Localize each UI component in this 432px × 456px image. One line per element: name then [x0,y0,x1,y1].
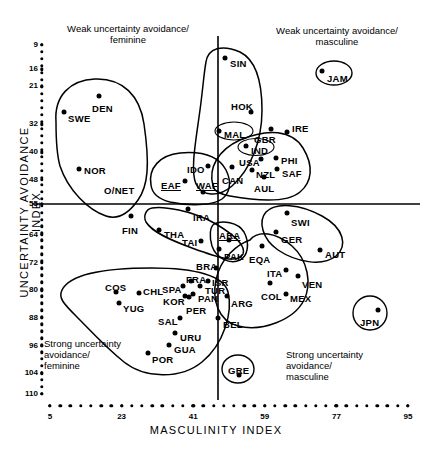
y-axis-tick-label: 48 [18,176,38,184]
point-label-col: COL [261,292,282,302]
point-label-fra: FRA [186,275,206,285]
point-label-yug: YUG [123,304,145,314]
data-point-jpn [376,308,381,313]
point-label-waf: WAF [196,181,218,191]
data-point-mex [284,292,289,297]
point-label-swi: SWI [291,218,310,228]
data-point-bel [216,316,221,321]
data-point-ven [296,274,301,279]
data-point-fin [129,214,134,219]
point-label-pan: PAN [198,294,218,304]
data-point-isr [206,279,211,284]
data-point-gua [167,343,172,348]
y-axis-tick-label: 80 [18,286,38,294]
y-axis-tick-label: 9 [18,41,38,49]
x-axis-tick-label: 77 [326,413,346,421]
point-label-kor: KOR [163,297,185,307]
point-label-pak: PAK [224,252,244,262]
data-point-col [268,281,273,286]
point-label-ara: ARA [219,231,240,241]
data-point-tha [157,228,162,233]
data-point-den [97,94,102,99]
masculinity-uncertainty-scatter-plot: Weak uncertainty avoidance/ feminine Wea… [0,0,432,456]
data-point-nor [77,167,82,172]
x-axis-tick-label: 5 [40,413,60,421]
point-label-mal: MAL [224,130,245,140]
point-label-per: PER [186,306,206,316]
data-point-saf [275,167,280,172]
point-label-ire: IRE [292,124,309,134]
point-label-tai: TAI [182,238,198,248]
y-axis-tick-label: 16 [18,65,38,73]
x-axis-tick-label: 23 [112,413,132,421]
data-point-swi [285,211,290,216]
data-point-yug [117,301,122,306]
point-label-phi: PHI [281,156,298,166]
point-label-bel: BEL [223,320,243,330]
point-label-por: POR [152,355,174,365]
data-point-ire [285,130,290,135]
point-label-nor: NOR [84,166,106,176]
x-axis-tick-label: 41 [183,413,203,421]
data-point-ger [274,230,279,235]
point-label-eaf: EAF [161,181,181,191]
data-point-ind [244,144,249,149]
data-point-tai [199,239,204,244]
x-axis-tick-label: 59 [255,413,275,421]
point-label-saf: SAF [282,169,302,179]
y-axis-tick-label: 64 [18,231,38,239]
point-label-ger: GER [281,235,303,245]
point-label-can: CAN [222,176,243,186]
annotation-strong-masculine: Strong uncertainty avoidance/ masculine [286,350,416,383]
point-label-uru: URU [180,333,201,343]
point-label-ita: ITA [267,269,283,279]
y-axis-tick-label: 21 [18,82,38,90]
data-point-sal [178,316,183,321]
y-axis-tick-label: 32 [18,120,38,128]
y-axis-tick-label: 55 [18,200,38,208]
data-point-can [230,165,235,170]
point-label-sal: SAL [158,317,178,327]
point-label-aul: AUL [254,184,274,194]
data-point-uru [173,331,178,336]
y-axis-tick-label: 96 [18,342,38,350]
point-label-arg: ARG [231,299,253,309]
data-point-por [146,351,151,356]
y-axis-tick-label: 110 [18,390,38,398]
x-axis-title: MASCULINITY INDEX [0,424,432,436]
point-label-sin: SIN [230,59,247,69]
point-label-gre: GRE [228,366,250,376]
data-point-ido [206,164,211,169]
point-label-ido: IDO [187,165,205,175]
point-label-chl: CHL [143,287,163,297]
data-point-per [187,295,192,300]
point-label-ira: IRA [193,213,210,223]
y-axis-tick-label: 104 [18,369,38,377]
point-label-spa: SPA [162,285,182,295]
point-label-jpn: JPN [360,318,379,328]
point-label-jam: JAM [327,74,348,84]
point-label-gua: GUA [174,345,196,355]
point-label-o-net: O/NET [104,186,135,196]
annotation-weak-masculine: Weak uncertainty avoidance/ masculine [252,26,422,48]
data-point-arg [225,294,230,299]
data-point-pak [217,247,222,252]
point-label-eqa: EQA [249,255,271,265]
data-point-ira [186,207,191,212]
point-label-cos: COS [105,283,127,293]
point-label-ven: VEN [302,280,322,290]
y-axis-tick-label: 72 [18,259,38,267]
point-label-gbr: GBR [254,135,276,145]
point-label-mex: MEX [290,294,312,304]
point-label-den: DEN [92,104,113,114]
data-point-sin [223,56,228,61]
data-point-tur [198,284,203,289]
data-point-eqa [260,244,265,249]
annotation-weak-feminine: Weak uncertainty avoidance/ feminine [48,24,208,46]
point-label-aut: AUT [325,250,345,260]
data-point-aul [262,175,267,180]
data-point-jam [320,69,325,74]
x-axis-tick-label: 95 [398,413,418,421]
point-label-fin: FIN [122,226,138,236]
data-point-eaf [183,179,188,184]
